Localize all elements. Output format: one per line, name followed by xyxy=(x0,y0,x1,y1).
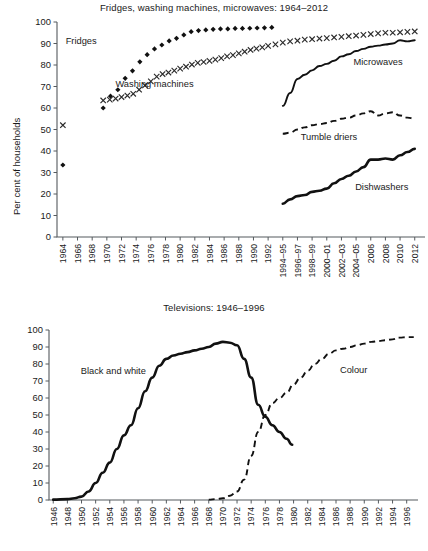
series-annotation: Black and white xyxy=(81,366,146,376)
x-tick-label: 1974 xyxy=(131,244,141,263)
y-tick-label: 40 xyxy=(33,426,43,437)
axis-lines xyxy=(49,330,418,500)
x-tick-label: 1976 xyxy=(146,244,156,263)
x-tick-label: 1988 xyxy=(234,244,244,263)
x-tick-label: 1986 xyxy=(331,507,341,526)
x-tick-label: 1984 xyxy=(317,507,327,526)
series-annotation: Washing machines xyxy=(115,79,194,89)
x-tick-label: 1996–97 xyxy=(293,244,303,278)
chart-plot-area-top: 0102030405060708090100196419661968197019… xyxy=(0,0,428,290)
y-tick-label: 30 xyxy=(41,167,51,178)
x-tick-label: 1970 xyxy=(218,507,228,526)
x-tick-label: 1962 xyxy=(162,507,172,526)
x-tick-label: 1994–95 xyxy=(278,244,288,278)
x-tick-label: 1948 xyxy=(63,507,73,526)
y-axis-label-top: Per cent of households xyxy=(11,118,22,215)
series-annotation: Fridges xyxy=(66,36,97,46)
y-tick-label: 60 xyxy=(41,102,51,113)
y-tick-label: 30 xyxy=(33,443,43,454)
y-tick-label: 20 xyxy=(41,188,51,199)
x-tick-label: 2012 xyxy=(410,244,420,263)
y-tick-label: 0 xyxy=(38,494,43,505)
y-tick-label: 100 xyxy=(27,324,43,335)
x-tick-label: 1980 xyxy=(289,507,299,526)
series-dishwashers xyxy=(283,149,415,204)
y-tick-label: 0 xyxy=(46,231,51,242)
x-tick-label: 1978 xyxy=(275,507,285,526)
x-tick-label: 1958 xyxy=(133,507,143,526)
chart-televisions: Televisions: 1946–1996 Per cent of house… xyxy=(0,290,428,551)
series-tumble-driers xyxy=(283,111,415,134)
series-annotation: Dishwashers xyxy=(355,182,409,192)
x-tick-label: 1976 xyxy=(261,507,271,526)
chart-plot-area-bottom: 0102030405060708090100194619481950195219… xyxy=(0,290,428,551)
x-tick-label: 1964 xyxy=(58,244,68,263)
x-tick-label: 2008 xyxy=(381,244,391,263)
x-tick-label: 1972 xyxy=(232,507,242,526)
y-tick-label: 40 xyxy=(41,145,51,156)
x-tick-label: 2002–03 xyxy=(337,244,347,278)
y-tick-label: 80 xyxy=(33,358,43,369)
series-annotation: Microwaves xyxy=(354,57,403,67)
x-tick-label: 1964 xyxy=(176,507,186,526)
y-tick-label: 100 xyxy=(35,16,51,27)
y-tick-label: 10 xyxy=(41,210,51,221)
x-tick-label: 1996 xyxy=(402,507,412,526)
x-tick-label: 1992 xyxy=(374,507,384,526)
x-tick-label: 1956 xyxy=(119,507,129,526)
x-tick-label: 1988 xyxy=(345,507,355,526)
x-tick-label: 1972 xyxy=(117,244,127,263)
x-tick-label: 2010 xyxy=(395,244,405,263)
series-fridges xyxy=(60,25,274,168)
x-tick-label: 1986 xyxy=(219,244,229,263)
y-tick-label: 90 xyxy=(33,341,43,352)
series-annotation: Tumble driers xyxy=(301,132,358,142)
series-annotation: Colour xyxy=(340,365,367,375)
x-tick-label: 1970 xyxy=(102,244,112,263)
x-tick-label: 1960 xyxy=(148,507,158,526)
x-tick-label: 2006 xyxy=(366,244,376,263)
x-tick-label: 1978 xyxy=(161,244,171,263)
x-tick-label: 1974 xyxy=(246,507,256,526)
x-tick-label: 1950 xyxy=(77,507,87,526)
x-tick-label: 2000–01 xyxy=(322,244,332,278)
y-tick-label: 50 xyxy=(33,409,43,420)
y-tick-label: 70 xyxy=(41,81,51,92)
x-tick-label: 1998–99 xyxy=(307,244,317,278)
x-tick-label: 1980 xyxy=(175,244,185,263)
y-tick-label: 80 xyxy=(41,59,51,70)
y-tick-label: 70 xyxy=(33,375,43,386)
series-colour xyxy=(209,337,414,500)
y-tick-label: 60 xyxy=(33,392,43,403)
x-tick-label: 2004–05 xyxy=(351,244,361,278)
x-tick-label: 1952 xyxy=(91,507,101,526)
y-tick-label: 50 xyxy=(41,124,51,135)
x-tick-label: 1946 xyxy=(49,507,59,526)
x-tick-label: 1992 xyxy=(263,244,273,263)
x-tick-label: 1954 xyxy=(105,507,115,526)
x-tick-label: 1982 xyxy=(303,507,313,526)
y-tick-label: 10 xyxy=(33,477,43,488)
x-tick-label: 1984 xyxy=(205,244,215,263)
series-microwaves xyxy=(283,40,415,106)
x-tick-label: 1968 xyxy=(204,507,214,526)
x-tick-label: 1966 xyxy=(73,244,83,263)
x-tick-label: 1990 xyxy=(249,244,259,263)
x-tick-label: 1994 xyxy=(388,507,398,526)
chart-fridges-washing-microwaves: Fridges, washing machines, microwaves: 1… xyxy=(0,0,428,290)
x-tick-label: 1990 xyxy=(360,507,370,526)
chart-title-top: Fridges, washing machines, microwaves: 1… xyxy=(0,2,428,13)
x-tick-label: 1968 xyxy=(87,244,97,263)
x-tick-label: 1966 xyxy=(190,507,200,526)
x-tick-label: 1982 xyxy=(190,244,200,263)
y-tick-label: 20 xyxy=(33,460,43,471)
y-tick-label: 90 xyxy=(41,38,51,49)
axis-lines xyxy=(57,22,425,237)
chart-title-bottom: Televisions: 1946–1996 xyxy=(0,302,428,313)
